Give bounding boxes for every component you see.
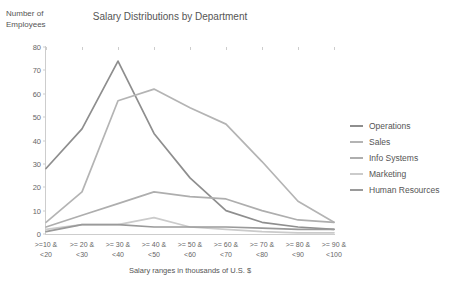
y-axis-tick-mark xyxy=(43,163,46,164)
legend-item-label: Marketing xyxy=(369,169,406,179)
x-axis-tick-mark xyxy=(262,47,263,50)
x-axis-tick-mark xyxy=(118,47,119,50)
chart-legend: OperationsSalesInfo SystemsMarketingHuma… xyxy=(350,118,454,198)
x-axis-title: Salary ranges in thousands of U.S. $ xyxy=(46,266,334,275)
x-axis-tick-label: >= 90 &<100 xyxy=(308,234,360,259)
x-axis-tick-mark xyxy=(154,47,155,50)
legend-swatch-icon xyxy=(350,173,363,176)
x-axis-tick-mark xyxy=(298,47,299,50)
legend-swatch-icon xyxy=(350,141,363,144)
y-axis-tick-mark xyxy=(43,93,46,94)
series-lines xyxy=(46,47,334,234)
series-line-info-systems xyxy=(46,192,334,227)
x-axis-tick-mark xyxy=(334,47,335,50)
x-axis-tick-mark xyxy=(82,47,83,50)
series-line-operations xyxy=(46,61,334,229)
legend-item-marketing[interactable]: Marketing xyxy=(350,166,454,182)
legend-item-label: Operations xyxy=(369,121,411,131)
x-axis-tick-mark xyxy=(226,47,227,50)
series-line-sales xyxy=(46,89,334,222)
legend-swatch-icon xyxy=(350,125,363,128)
legend-swatch-icon xyxy=(350,189,363,192)
plot-area: 01020304050607080>=10 &<20>= 20 &<30>= 3… xyxy=(46,47,334,234)
y-axis-tick-mark xyxy=(43,210,46,211)
y-axis-tick-mark xyxy=(43,117,46,118)
legend-item-label: Human Resources xyxy=(369,185,439,195)
chart-title: Salary Distributions by Department xyxy=(0,11,340,22)
legend-item-human-resources[interactable]: Human Resources xyxy=(350,182,454,198)
x-axis-tick-mark xyxy=(46,47,47,50)
legend-item-operations[interactable]: Operations xyxy=(350,118,454,134)
y-axis-tick-mark xyxy=(43,70,46,71)
x-axis-tick-mark xyxy=(190,47,191,50)
legend-item-sales[interactable]: Sales xyxy=(350,134,454,150)
legend-item-label: Sales xyxy=(369,137,390,147)
legend-item-label: Info Systems xyxy=(369,153,418,163)
y-axis-tick-mark xyxy=(43,140,46,141)
legend-swatch-icon xyxy=(350,157,363,160)
legend-item-info-systems[interactable]: Info Systems xyxy=(350,150,454,166)
y-axis-tick-mark xyxy=(43,187,46,188)
chart-container: Number of Employees Salary Distributions… xyxy=(0,0,456,294)
